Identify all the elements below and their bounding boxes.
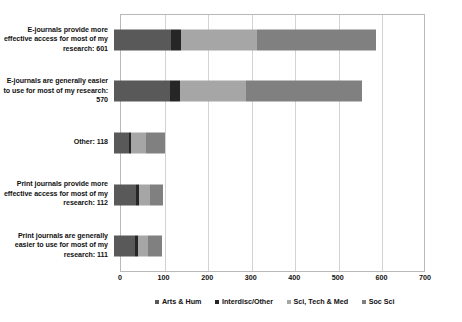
- bar-segment-sci-tech-med[interactable]: [181, 29, 257, 50]
- bar-segment-arts-hum[interactable]: [114, 132, 129, 153]
- x-axis-tick-label: 200: [201, 273, 213, 282]
- bar-segment-soc-sci[interactable]: [257, 29, 376, 50]
- bar-segment-soc-sci[interactable]: [246, 81, 362, 102]
- chart-row: Print journals provide more effective ac…: [0, 169, 462, 221]
- x-axis-tick-label: 600: [375, 273, 387, 282]
- legend-swatch-icon: [362, 300, 366, 304]
- bar-track: [114, 220, 419, 272]
- x-axis-tick-label: 300: [245, 273, 257, 282]
- bar-segment-sci-tech-med[interactable]: [131, 132, 146, 153]
- chart-row: Other: 118: [0, 117, 462, 169]
- category-label: E-journals provide more effective access…: [0, 26, 114, 54]
- bar-segment-arts-hum[interactable]: [114, 236, 135, 257]
- bar-track: [114, 117, 419, 169]
- bar-segment-soc-sci[interactable]: [150, 184, 163, 205]
- bar-segment-interdisc-other[interactable]: [170, 81, 180, 102]
- category-label: E-journals are generally easier to use f…: [0, 77, 114, 105]
- bar-segment-arts-hum[interactable]: [114, 29, 171, 50]
- x-axis-tick-label: 500: [332, 273, 344, 282]
- bar-segment-arts-hum[interactable]: [114, 81, 170, 102]
- legend-item[interactable]: Interdisc/Other: [215, 297, 273, 306]
- chart-rows: E-journals provide more effective access…: [0, 14, 462, 272]
- legend-item[interactable]: Sci, Tech & Med: [287, 297, 348, 306]
- bar-segment-sci-tech-med[interactable]: [139, 184, 150, 205]
- legend-swatch-icon: [287, 300, 291, 304]
- legend-item[interactable]: Arts & Hum: [155, 297, 201, 306]
- chart-row: E-journals provide more effective access…: [0, 14, 462, 66]
- stacked-bar[interactable]: [114, 236, 162, 257]
- x-axis-tick-label: 700: [419, 273, 431, 282]
- stacked-bar-chart: E-journals provide more effective access…: [0, 0, 462, 322]
- legend-swatch-icon: [155, 300, 159, 304]
- x-axis-tick-label: 100: [158, 273, 170, 282]
- chart-row: Print journals are generally easier to u…: [0, 220, 462, 272]
- bar-track: [114, 14, 419, 66]
- legend-label: Interdisc/Other: [222, 297, 273, 306]
- chart-legend: Arts & HumInterdisc/OtherSci, Tech & Med…: [120, 297, 430, 306]
- bar-segment-soc-sci[interactable]: [148, 236, 163, 257]
- legend-swatch-icon: [215, 300, 219, 304]
- chart-row: E-journals are generally easier to use f…: [0, 66, 462, 118]
- stacked-bar[interactable]: [114, 81, 362, 102]
- legend-label: Sci, Tech & Med: [294, 297, 349, 306]
- bar-segment-arts-hum[interactable]: [114, 184, 136, 205]
- legend-label: Arts & Hum: [162, 297, 202, 306]
- bar-segment-soc-sci[interactable]: [146, 132, 165, 153]
- legend-label: Soc Sci: [369, 297, 395, 306]
- bar-track: [114, 66, 419, 118]
- x-axis-tick-label: 0: [118, 273, 122, 282]
- bar-track: [114, 169, 419, 221]
- x-axis: 0100200300400500600700: [120, 273, 425, 287]
- stacked-bar[interactable]: [114, 184, 163, 205]
- stacked-bar[interactable]: [114, 29, 376, 50]
- bar-segment-sci-tech-med[interactable]: [138, 236, 148, 257]
- bar-segment-sci-tech-med[interactable]: [180, 81, 246, 102]
- x-axis-tick-label: 400: [288, 273, 300, 282]
- category-label: Print journals provide more effective ac…: [0, 180, 114, 208]
- stacked-bar[interactable]: [114, 132, 165, 153]
- category-label: Other: 118: [0, 138, 114, 147]
- category-label: Print journals are generally easier to u…: [0, 232, 114, 260]
- bar-segment-interdisc-other[interactable]: [171, 29, 181, 50]
- legend-item[interactable]: Soc Sci: [362, 297, 394, 306]
